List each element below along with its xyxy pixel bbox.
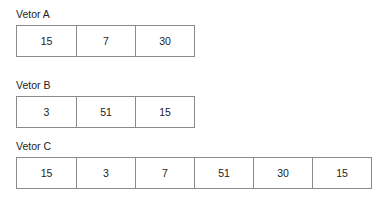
vector-a-cell-0: 15 — [17, 26, 76, 56]
vector-a-cell-1: 7 — [76, 26, 135, 56]
vector-a-cells: 15 7 30 — [16, 25, 195, 57]
vector-c-cell-2: 7 — [135, 158, 194, 188]
vector-b-cell-1: 51 — [76, 97, 135, 127]
vector-c-cell-5: 15 — [312, 158, 371, 188]
vector-a: Vetor A 15 7 30 — [16, 8, 195, 57]
vector-b-cells: 3 51 15 — [16, 96, 195, 128]
vector-b-label: Vetor B — [16, 79, 195, 92]
vector-b-cell-2: 15 — [135, 97, 194, 127]
vector-c: Vetor C 15 3 7 51 30 15 — [16, 140, 372, 189]
vector-a-cell-2: 30 — [135, 26, 194, 56]
vector-b-cell-0: 3 — [17, 97, 76, 127]
vector-c-cell-0: 15 — [17, 158, 76, 188]
vector-c-cells: 15 3 7 51 30 15 — [16, 157, 372, 189]
vector-a-label: Vetor A — [16, 8, 195, 21]
vector-c-cell-4: 30 — [253, 158, 312, 188]
vector-c-cell-1: 3 — [76, 158, 135, 188]
vector-b: Vetor B 3 51 15 — [16, 79, 195, 128]
vector-c-cell-3: 51 — [194, 158, 253, 188]
vector-c-label: Vetor C — [16, 140, 372, 153]
